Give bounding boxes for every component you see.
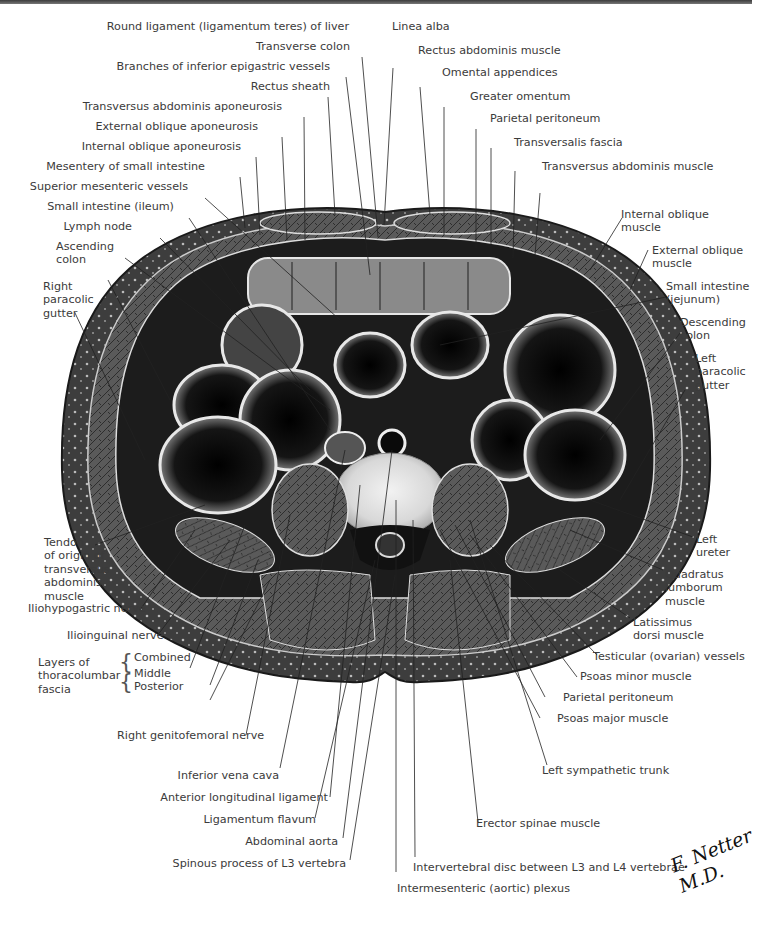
label-ilioinguinal-nerve: Ilioinguinal nerve	[67, 629, 164, 642]
label-iliohypogastric-nerve: Iliohypogastric nerve	[28, 602, 146, 615]
label-tendon-transversus: Tendon of origin of transversus abdomini…	[44, 536, 110, 603]
label-external-oblique-aponeurosis: External oblique aponeurosis	[95, 120, 258, 133]
label-linea-alba: Linea alba	[392, 20, 450, 33]
label-lymph-node: Lymph node	[64, 220, 132, 233]
label-abdominal-aorta: Abdominal aorta	[245, 835, 338, 848]
label-anterior-longitudinal-ligament: Anterior longitudinal ligament	[160, 791, 328, 804]
label-internal-oblique-muscle: Internal oblique muscle	[621, 208, 709, 235]
label-rectus-abdominis-muscle: Rectus abdominis muscle	[418, 44, 561, 57]
label-testicular-vessels: Testicular (ovarian) vessels	[593, 650, 745, 663]
label-fascia-posterior: Posterior	[134, 680, 183, 693]
label-rectus-sheath: Rectus sheath	[251, 80, 330, 93]
label-left-sympathetic-trunk: Left sympathetic trunk	[542, 764, 669, 777]
label-right-genitofemoral-nerve: Right genitofemoral nerve	[117, 729, 264, 742]
label-superior-mesenteric-vessels: Superior mesenteric vessels	[30, 180, 188, 193]
label-erector-spinae: Erector spinae muscle	[476, 817, 600, 830]
label-parietal-peritoneum-bottom: Parietal peritoneum	[563, 691, 673, 704]
inferior-vena-cava-shape	[325, 432, 365, 464]
left-erector-spinae	[405, 570, 510, 650]
label-transverse-colon: Transverse colon	[256, 40, 350, 53]
label-internal-oblique-aponeurosis: Internal oblique aponeurosis	[82, 140, 241, 153]
label-mesentery-small-intestine: Mesentery of small intestine	[46, 160, 205, 173]
label-ligamentum-flavum: Ligamentum flavum	[203, 813, 316, 826]
label-fascia-middle: Middle	[134, 667, 171, 680]
label-external-oblique-muscle: External oblique muscle	[652, 244, 743, 271]
label-small-intestine-ileum: Small intestine (ileum)	[47, 200, 174, 213]
label-greater-omentum: Greater omentum	[470, 90, 570, 103]
label-fascia-combined: Combined	[134, 651, 191, 664]
label-ascending-colon: Ascending colon	[56, 240, 114, 267]
right-psoas-major	[272, 464, 348, 556]
label-small-intestine-jejunum: Small intestine (jejunum)	[666, 280, 749, 307]
label-parietal-peritoneum-top: Parietal peritoneum	[490, 112, 600, 125]
label-thoracolumbar-fascia: Layers of thoracolumbar fascia	[38, 656, 120, 696]
left-psoas-major	[432, 464, 508, 556]
label-omental-appendices: Omental appendices	[442, 66, 558, 79]
brace-icon: {	[119, 672, 133, 692]
right-erector-spinae	[260, 570, 375, 650]
label-psoas-minor: Psoas minor muscle	[580, 670, 692, 683]
right-rectus-abdominis	[260, 212, 376, 234]
label-descending-colon: Descending colon	[680, 316, 746, 343]
label-intermesenteric-plexus: Intermesenteric (aortic) plexus	[397, 882, 570, 895]
label-left-paracolic-gutter: Left paracolic gutter	[695, 352, 746, 392]
label-transversus-abdominis-aponeurosis: Transversus abdominis aponeurosis	[83, 100, 282, 113]
label-quadratus-lumborum: Quadratus lumborum muscle	[665, 568, 724, 608]
label-inferior-vena-cava: Inferior vena cava	[178, 769, 279, 782]
label-round-ligament: Round ligament (ligamentum teres) of liv…	[107, 20, 349, 33]
label-right-paracolic-gutter: Right paracolic gutter	[43, 280, 94, 320]
label-intervertebral-disc: Intervertebral disc between L3 and L4 ve…	[413, 861, 685, 874]
label-psoas-major: Psoas major muscle	[557, 712, 668, 725]
label-left-ureter: Left ureter	[696, 533, 730, 560]
left-rectus-abdominis	[394, 212, 510, 234]
label-spinous-process-l3: Spinous process of L3 vertebra	[173, 857, 346, 870]
label-latissimus-dorsi: Latissimus dorsi muscle	[633, 616, 704, 643]
label-transversalis-fascia: Transversalis fascia	[514, 136, 623, 149]
label-transversus-abdominis-muscle: Transversus abdominis muscle	[542, 160, 713, 173]
label-inferior-epigastric-vessels: Branches of inferior epigastric vessels	[117, 60, 330, 73]
